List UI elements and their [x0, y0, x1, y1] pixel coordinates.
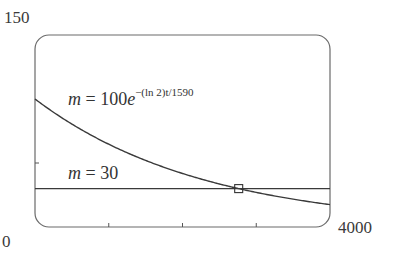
eq1-exponent: −(ln 2)t/1590 [135, 86, 193, 98]
plot-area [0, 0, 398, 262]
eq2-value: = 30 [81, 163, 118, 183]
eq1-variable: m [68, 89, 81, 109]
decay-equation-label: m = 100e−(ln 2)t/1590 [68, 88, 194, 110]
eq2-variable: m [68, 163, 81, 183]
constant-equation-label: m = 30 [68, 163, 118, 184]
eq1-base: e [127, 89, 135, 109]
eq1-coefficient: = 100 [81, 89, 127, 109]
